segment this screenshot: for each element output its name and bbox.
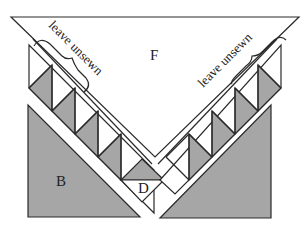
label-d: D — [138, 180, 149, 196]
quilt-diagram: F B D leave unsewn leave unsewn — [0, 0, 305, 230]
label-b: B — [56, 173, 66, 189]
label-f: F — [150, 47, 158, 63]
diagram-canvas: F B D leave unsewn leave unsewn — [0, 0, 305, 230]
